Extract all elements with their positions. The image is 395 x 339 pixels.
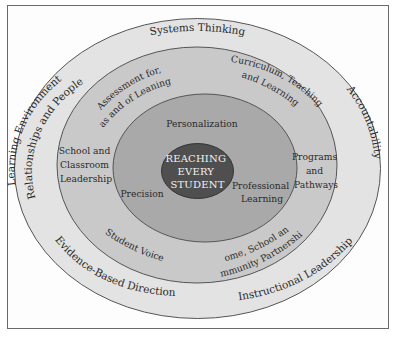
label-personalization: Personalization [166,118,238,129]
label-precision: Precision [120,188,163,199]
concentric-diagram: Systems Thinking Learning Environment Re… [0,0,395,339]
label-school-classroom-leadership: School and Classroom Leadership [59,145,113,184]
